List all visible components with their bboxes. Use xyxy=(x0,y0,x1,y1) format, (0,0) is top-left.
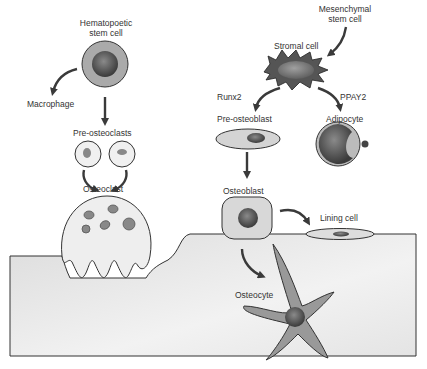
pre-osteoclast-cells xyxy=(75,141,135,167)
lining-cell xyxy=(306,229,374,240)
diagram-canvas xyxy=(0,0,427,369)
label-lining-cell: Lining cell xyxy=(320,213,358,223)
label-hematopoetic-stem-cell: Hematopoetic stem cell xyxy=(72,18,140,38)
arrow-hsc-to-macrophage xyxy=(53,69,77,92)
label-osteoclast: Osteoclast xyxy=(83,184,123,194)
arrow-osteoblast-to-lining xyxy=(280,210,308,222)
label-pre-osteoclasts: Pre-osteoclasts xyxy=(73,128,132,138)
label-osteocyte: Osteocyte xyxy=(235,290,273,300)
adipocyte-cell xyxy=(316,122,369,166)
label-stromal-cell: Stromal cell xyxy=(274,41,318,51)
stromal-cell xyxy=(264,50,328,90)
label-runx2: Runx2 xyxy=(217,92,242,102)
arrow-msc-to-stromal xyxy=(330,27,346,54)
label-macrophage: Macrophage xyxy=(27,99,74,109)
pre-osteoblast-cell xyxy=(216,129,280,149)
label-ppay2: PPAY2 xyxy=(340,92,366,102)
label-mesenchymal-stem-cell: Mesenchymal stem cell xyxy=(306,4,384,24)
label-adipocyte: Adipocyte xyxy=(326,114,363,124)
label-osteoblast: Osteoblast xyxy=(223,186,264,196)
osteoclast-cell xyxy=(62,196,151,278)
hematopoetic-stem-cell xyxy=(82,41,128,87)
label-pre-osteoblast: Pre-osteoblast xyxy=(217,114,272,124)
arrow-stromal-to-adipocyte xyxy=(318,88,340,108)
arrow-stromal-to-preosteoblast xyxy=(256,88,280,108)
osteoblast-cell xyxy=(222,197,272,239)
